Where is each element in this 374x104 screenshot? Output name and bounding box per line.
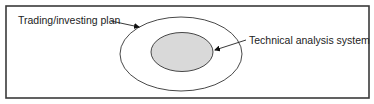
label-trading-plan: Trading/investing plan bbox=[18, 14, 120, 26]
inner-ellipse-technical-analysis bbox=[151, 33, 213, 72]
label-technical-analysis: Technical analysis system bbox=[249, 34, 370, 46]
